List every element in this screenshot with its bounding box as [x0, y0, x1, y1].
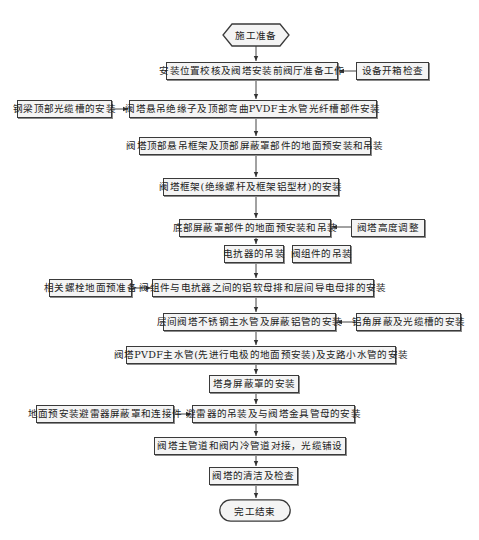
step-label: 安装位置校核及阀塔安装前阀厅准备工作	[159, 66, 344, 76]
end-node: 完工结束	[219, 499, 291, 522]
step-label: 阀塔主管道和阀内冷管道对接，光缆铺设	[157, 441, 342, 451]
side-step-label: 钢梁顶部光缆槽的安装	[13, 104, 116, 114]
step-cleaning-inspection: 阀塔的清洁及检查	[209, 467, 298, 485]
start-label: 施工准备	[222, 23, 290, 47]
end-label: 完工结束	[219, 499, 291, 522]
step-label: 阀塔的清洁及检查	[212, 471, 294, 481]
step-pvdf-main-pipe: 阀塔PVDF主水管(先进行电极的地面预安装)及支路小水管的安装	[126, 346, 396, 364]
step-label: 底部屏蔽罩部件的地面预安装和吊装	[173, 223, 338, 233]
side-step-corner-shield: 铝角屏蔽及光缆槽的安装	[356, 313, 461, 331]
step-arrester-hoist: 避雷器的吊装及与阀塔金具管母的安装	[192, 405, 355, 423]
step-bottom-shield: 底部屏蔽罩部件的地面预安装和吊装	[179, 219, 331, 237]
step-label: 阀塔悬吊绝缘子及顶部弯曲PVDF主水管光纤槽部件安装	[125, 104, 381, 114]
step-reactor-hoist: 电抗器的吊装	[224, 245, 284, 263]
side-step-cable-tray: 钢梁顶部光缆槽的安装	[17, 100, 112, 118]
side-step-label: 铝角屏蔽及光缆槽的安装	[352, 317, 465, 327]
connector-arrows	[0, 0, 479, 540]
side-step-label: 相关螺栓地面预准备	[44, 283, 137, 293]
start-node: 施工准备	[222, 23, 290, 47]
step-label: 电抗器的吊装	[223, 249, 285, 259]
step-label: 阀塔框架(绝缘螺杆及框架铝型材)的安装	[159, 182, 342, 192]
step-label: 避雷器的吊装及与阀塔金具管母的安装	[186, 409, 361, 419]
step-valve-module-hoist: 阀组件的吊装	[292, 245, 351, 263]
side-step-bolt-prep: 相关螺栓地面预准备	[49, 279, 132, 297]
step-label: 阀组件的吊装	[291, 249, 353, 259]
step-busbar-install: 阀组件与电抗器之间的铝软母排和层间导电母排的安装	[152, 279, 374, 297]
step-steel-pipe-shield: 层间阀塔不锈钢主水管及屏蔽铝管的安装	[163, 313, 336, 331]
side-step-equipment-unboxing: 设备开箱检查	[356, 62, 429, 80]
step-pipe-docking-cabling: 阀塔主管道和阀内冷管道对接，光缆铺设	[154, 437, 346, 455]
step-label: 阀组件与电抗器之间的铝软母排和层间导电母排的安装	[139, 283, 386, 293]
side-step-label: 阀塔高度调整	[357, 223, 419, 233]
step-site-preparation: 安装位置校核及阀塔安装前阀厅准备工作	[166, 62, 338, 80]
step-label: 阀塔顶部悬吊框架及顶部屏蔽罩部件的地面预安装和吊装	[126, 141, 384, 151]
side-step-label: 地面预安装避雷器屏蔽罩和连接件	[28, 409, 183, 419]
step-insulator-pvdf-install: 阀塔悬吊绝缘子及顶部弯曲PVDF主水管光纤槽部件安装	[129, 100, 377, 118]
step-label: 层间阀塔不锈钢主水管及屏蔽铝管的安装	[157, 317, 342, 327]
step-tower-shield: 塔身屏蔽罩的安装	[209, 375, 299, 393]
side-step-label: 设备开箱检查	[362, 66, 424, 76]
side-step-arrester-preassembly: 地面预安装避雷器屏蔽罩和连接件	[36, 405, 174, 423]
step-top-frame-shield: 阀塔顶部悬吊框架及顶部屏蔽罩部件的地面预安装和吊装	[139, 137, 371, 155]
step-valve-frame: 阀塔框架(绝缘螺杆及框架铝型材)的安装	[163, 178, 339, 196]
step-label: 塔身屏蔽罩的安装	[213, 379, 295, 389]
step-label: 阀塔PVDF主水管(先进行电极的地面预安装)及支路小水管的安装	[114, 350, 409, 360]
side-step-height-adjust: 阀塔高度调整	[351, 219, 425, 237]
